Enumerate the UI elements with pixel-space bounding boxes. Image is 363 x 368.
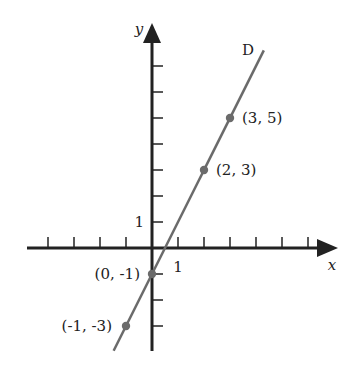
data-point — [122, 322, 130, 330]
point-label: (0, -1) — [95, 265, 140, 283]
y-axis-arrow-icon — [143, 23, 161, 43]
x-tick-label: 1 — [173, 258, 183, 276]
point-label: (3, 5) — [242, 109, 282, 127]
point-label: (2, 3) — [216, 161, 256, 179]
line-d-path — [114, 50, 264, 350]
data-point — [148, 270, 156, 278]
data-point — [200, 166, 208, 174]
line-label: D — [242, 41, 254, 59]
x-axis-arrow-icon — [317, 239, 338, 257]
data-point — [226, 114, 234, 122]
x-axis-label: x — [328, 256, 337, 274]
axes — [27, 23, 338, 351]
line-d — [114, 50, 264, 350]
coordinate-plot: (-1, -3)(0, -1)(2, 3)(3, 5)11xyD — [0, 0, 363, 368]
point-label: (-1, -3) — [62, 317, 112, 335]
y-axis-label: y — [134, 20, 144, 38]
y-tick-label: 1 — [134, 213, 144, 231]
ticks — [48, 66, 308, 326]
